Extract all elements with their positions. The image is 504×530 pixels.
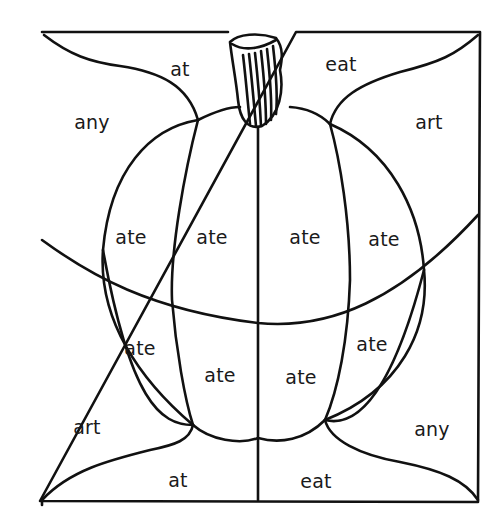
word-label: ate [285,366,316,388]
word-label: eat [325,53,356,75]
word-label: any [414,418,450,440]
word-label: ate [124,337,155,359]
pumpkin-line-drawing [0,0,504,530]
word-label: ate [368,228,399,250]
word-label: at [170,58,190,80]
word-label: ate [356,333,387,355]
word-label: ate [204,364,235,386]
word-label: ate [115,226,146,248]
word-label: ate [289,226,320,248]
word-label: any [74,111,110,133]
word-label: ate [196,226,227,248]
color-by-word-worksheet: at eat any art ate ate ate ate ate ate a… [0,0,504,530]
word-label: art [73,416,101,438]
word-label: at [168,469,188,491]
word-label: eat [300,470,331,492]
word-label: art [415,111,443,133]
